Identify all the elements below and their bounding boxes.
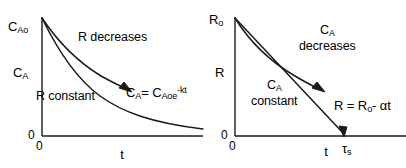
x-axis-label-left: t [120,148,124,161]
y-axis-label-left-base: C [13,65,22,80]
equation-right-lhs: R [334,98,343,113]
annotation-ca-constant-sub: A [276,83,282,93]
ca-decreases-arrow-head [312,82,325,92]
equation-right-tail: - αt [372,98,391,113]
equation-right-operator: = [347,98,355,113]
annotation-r-decreases: R decreases [78,31,147,44]
equation-concentration: CA= CAoe-kt [126,86,187,101]
annotation-ca-decreases-sub: A [329,28,335,38]
equation-right-rhs: R [358,98,367,113]
annotation-ca-decreases-line2: decreases [299,39,356,53]
y-top-label-right-sub: o [218,18,223,28]
chart-panel-concentration: CAo CA 0 0 t R decreases R constant CA= … [0,0,203,168]
annotation-ca-decreases: CA decreases [299,23,356,53]
y-top-label-left-base: C [8,19,17,34]
equation-rate: R = Ro- αt [334,99,391,114]
y-axis-label-left-sub: A [22,71,28,81]
annotation-ca-constant-line1: CA [251,78,297,94]
chart-svg-left [0,0,203,168]
y-top-label-right: Ro [209,13,223,28]
annotation-ca-constant: CA constant [251,78,297,108]
annotation-ca-constant-base: C [267,78,276,92]
y-origin-label-right: 0 [221,129,228,141]
x-end-label-tau-s: τs [342,142,351,157]
annotation-r-constant: R constant [36,90,95,103]
y-axis-label-left: CA [13,66,28,81]
y-origin-label-left: 0 [28,129,35,141]
equation-left-operator: = [141,85,149,100]
two-panel-decay-figure: CAo CA 0 0 t R decreases R constant CA= … [0,0,406,168]
y-top-label-left: CAo [8,20,28,35]
y-top-label-left-sub: Ao [17,25,28,35]
chart-panel-rate: Ro R 0 0 t τs CA decreases CA constant [203,0,406,168]
r-decreases-arrow-shaft [42,18,125,88]
y-axis-label-right: R [215,66,224,79]
y-top-label-right-base: R [209,12,218,27]
x-axis-label-right: t [324,145,328,158]
equation-left-rhs-sub: Aoe [161,91,177,101]
equation-left-lhs: C [126,85,135,100]
x-origin-label-left: 0 [36,140,43,152]
annotation-ca-decreases-base: C [320,23,329,37]
annotation-ca-constant-line2: constant [251,94,297,108]
annotation-ca-decreases-line1: CA [299,23,356,39]
equation-left-rhs-sup: -kt [177,85,187,95]
x-end-label-tau-sub: s [347,147,351,157]
x-origin-label-right: 0 [229,140,236,152]
